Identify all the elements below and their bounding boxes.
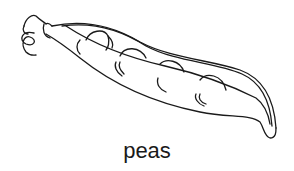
caption-label: peas [0,139,294,163]
pod-upper-edge [52,23,276,128]
pod-lower-edge [46,34,276,138]
pod-upper-edge-inner [62,25,272,126]
peas [86,31,226,90]
pea-pod-illustration [0,0,294,140]
pod-seam [66,26,270,124]
